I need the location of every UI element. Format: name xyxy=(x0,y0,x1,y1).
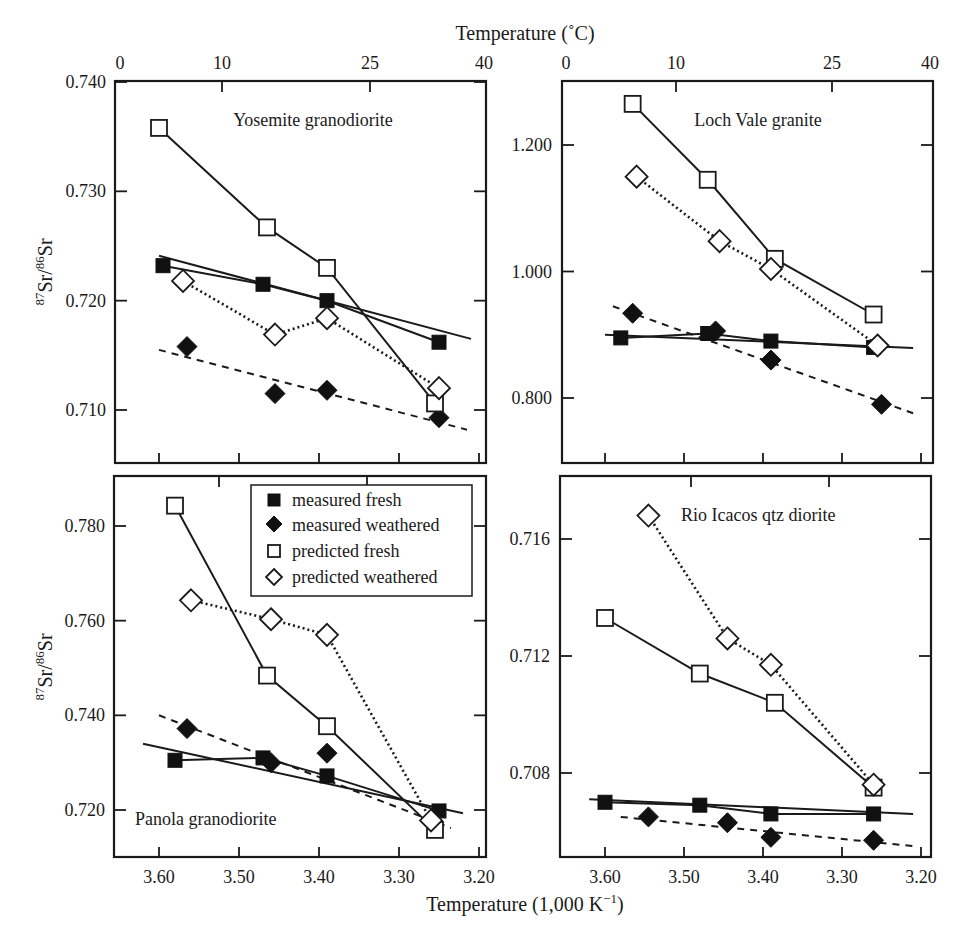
top-axis-title: Temperature (˚C) xyxy=(455,22,594,45)
predicted-weathered-line xyxy=(191,600,431,820)
open-square-icon xyxy=(268,545,280,557)
top-tick-label: 10 xyxy=(667,53,685,73)
measured-weathered-marker xyxy=(317,380,337,400)
measured-fresh-marker xyxy=(598,795,612,809)
predicted-weathered-marker xyxy=(172,270,194,292)
legend-item-measured-weathered: measured weathered xyxy=(266,515,439,535)
measured-fresh-marker xyxy=(764,334,778,348)
measured-weathered-marker xyxy=(864,830,884,850)
y-tick-label: 0.760 xyxy=(65,611,106,631)
measured-fresh-marker xyxy=(614,331,628,345)
predicted-fresh-marker xyxy=(319,718,335,734)
top-tick-label: 0 xyxy=(116,53,125,73)
predicted-fresh-marker xyxy=(151,120,167,136)
predicted-weathered-marker xyxy=(264,324,286,346)
measured-fresh-marker xyxy=(156,259,170,273)
y-axis-label-bottom: 87Sr/86Sr xyxy=(32,633,56,700)
predicted-weathered-marker xyxy=(760,654,782,676)
measured-fresh-marker xyxy=(432,335,446,349)
measured-weathered-marker xyxy=(623,303,643,323)
y-tick-label: 1.200 xyxy=(512,135,553,155)
measured-fresh-marker xyxy=(867,807,881,821)
y-axis-label-top: 87Sr/86Sr xyxy=(32,238,56,305)
y-tick-label: 0.730 xyxy=(66,181,107,201)
predicted-fresh-marker xyxy=(319,260,335,276)
y-tick-label: 0.740 xyxy=(65,705,106,725)
measured-weathered-marker xyxy=(717,813,737,833)
predicted-weathered-marker xyxy=(316,624,338,646)
y-tick-label: 0.720 xyxy=(65,800,106,820)
y-tick-label: 0.780 xyxy=(65,516,106,536)
predicted-fresh-line xyxy=(159,128,435,404)
measured-weathered-fit-line xyxy=(159,350,467,430)
bottom-axis-title: Temperature (1,000 K−1) xyxy=(426,891,623,916)
x-tick-label: 3.60 xyxy=(589,867,621,887)
measured-weathered-marker xyxy=(177,719,197,739)
panel-rio-icacos-qtz-diorite: 3.603.503.403.303.200.7160.7120.708Rio I… xyxy=(510,476,937,887)
predicted-fresh-marker xyxy=(866,307,882,323)
panel-title: Loch Vale granite xyxy=(694,110,822,130)
measured-fresh-marker xyxy=(764,807,778,821)
top-tick-label: 25 xyxy=(823,53,841,73)
y-tick-label: 0.712 xyxy=(510,646,551,666)
y-tick-label: 0.800 xyxy=(512,388,553,408)
measured-fresh-marker xyxy=(256,277,270,291)
panel-title: Rio Icacos qtz diorite xyxy=(681,505,835,525)
measured-fresh-marker xyxy=(168,753,182,767)
predicted-weathered-line xyxy=(649,516,874,785)
measured-weathered-marker xyxy=(317,743,337,763)
measured-fresh-marker xyxy=(320,294,334,308)
predicted-fresh-marker xyxy=(625,96,641,112)
svg-text:87Sr/86Sr: 87Sr/86Sr xyxy=(32,238,56,305)
svg-text:measured weathered: measured weathered xyxy=(292,515,439,535)
filled-square-icon xyxy=(268,494,280,506)
x-tick-label: 3.30 xyxy=(383,867,415,887)
measured-fresh-marker xyxy=(693,798,707,812)
svg-text:predicted fresh: predicted fresh xyxy=(292,541,399,561)
measured-fresh-line xyxy=(175,758,439,811)
x-tick-label: 3.30 xyxy=(826,867,858,887)
predicted-weathered-marker xyxy=(626,166,648,188)
x-tick-label: 3.20 xyxy=(463,867,495,887)
x-tick-label: 3.20 xyxy=(905,867,937,887)
predicted-fresh-marker xyxy=(167,498,183,514)
predicted-weathered-marker xyxy=(716,627,738,649)
predicted-fresh-marker xyxy=(767,695,783,711)
legend: measured fresh measured weathered predic… xyxy=(251,485,472,596)
measured-weathered-marker xyxy=(872,394,892,414)
measured-fresh-marker xyxy=(320,769,334,783)
predicted-weathered-marker xyxy=(180,589,202,611)
predicted-fresh-marker xyxy=(692,666,708,682)
x-tick-label: 3.40 xyxy=(747,867,779,887)
panel-title: Yosemite granodiorite xyxy=(233,110,393,130)
svg-text:87Sr/86Sr: 87Sr/86Sr xyxy=(32,633,56,700)
legend-item-predicted-weathered: predicted weathered xyxy=(266,567,437,587)
top-tick-label: 10 xyxy=(213,53,231,73)
x-tick-label: 3.50 xyxy=(223,867,255,887)
top-tick-label: 0 xyxy=(562,53,571,73)
figure-canvas: Temperature (˚C) Temperature (1,000 K−1)… xyxy=(0,0,954,931)
y-tick-label: 0.710 xyxy=(66,400,107,420)
top-tick-label: 40 xyxy=(475,53,493,73)
predicted-weathered-marker xyxy=(637,505,659,527)
y-tick-label: 1.000 xyxy=(512,262,553,282)
y-tick-label: 0.740 xyxy=(66,72,107,92)
predicted-weathered-marker xyxy=(316,307,338,329)
x-tick-label: 3.60 xyxy=(143,867,175,887)
measured-fresh-fit-line xyxy=(159,256,471,339)
panel-title: Panola granodiorite xyxy=(135,809,276,829)
top-tick-label: 25 xyxy=(361,53,379,73)
predicted-fresh-line xyxy=(633,104,874,315)
y-tick-label: 0.708 xyxy=(510,763,551,783)
predicted-weathered-line xyxy=(637,177,878,346)
x-tick-label: 3.40 xyxy=(303,867,335,887)
measured-weathered-marker xyxy=(265,384,285,404)
y-tick-label: 0.720 xyxy=(66,291,107,311)
predicted-fresh-marker xyxy=(259,219,275,235)
x-tick-label: 3.50 xyxy=(668,867,700,887)
svg-text:predicted weathered: predicted weathered xyxy=(292,567,437,587)
measured-fresh-line xyxy=(163,266,439,343)
predicted-weathered-marker xyxy=(260,608,282,630)
measured-weathered-marker xyxy=(761,350,781,370)
panel-loch-vale-granite: 01025401.2001.0000.800Loch Vale granite xyxy=(512,53,940,463)
